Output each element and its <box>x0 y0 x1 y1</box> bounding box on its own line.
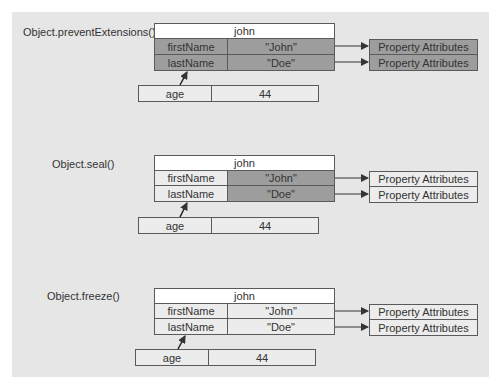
arrow-icon <box>180 46 368 85</box>
arrow-icon <box>178 311 368 349</box>
arrow-icon <box>180 178 368 217</box>
arrows-layer <box>0 0 501 386</box>
